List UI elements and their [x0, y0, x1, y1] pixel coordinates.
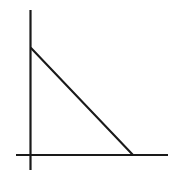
- plot-background: [0, 0, 174, 174]
- line-graph-plot: [0, 0, 174, 174]
- figure-canvas: ): [0, 0, 174, 174]
